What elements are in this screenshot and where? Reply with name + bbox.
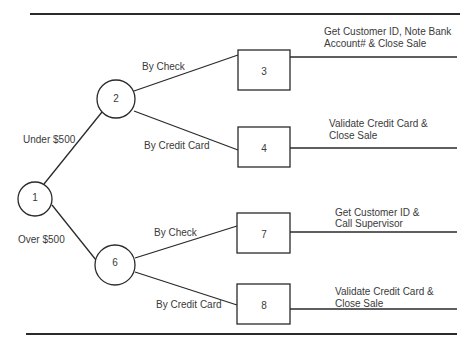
edge-1-to-2 — [44, 112, 102, 184]
outcome-4-line2: Close Sale — [329, 130, 378, 141]
node-7: 7 — [237, 213, 290, 253]
node-7-label: 7 — [261, 229, 267, 240]
node-2-label: 2 — [113, 93, 119, 104]
node-8-label: 8 — [261, 300, 267, 311]
outcome-3-line1: Get Customer ID, Note Bank — [324, 26, 452, 37]
node-2: 2 — [97, 80, 135, 118]
edge-label-over-500: Over $500 — [18, 234, 65, 245]
edge-label-6-by-check: By Check — [154, 227, 198, 238]
outcome-7-line1: Get Customer ID & — [335, 207, 420, 218]
node-3-label: 3 — [261, 66, 267, 77]
outcome-8-line2: Close Sale — [335, 298, 384, 309]
node-1-label: 1 — [32, 192, 38, 203]
edge-label-6-by-credit-card: By Credit Card — [156, 299, 222, 310]
node-3: 3 — [238, 50, 290, 90]
node-4: 4 — [238, 127, 290, 167]
outcome-8-line1: Validate Credit Card & — [335, 286, 434, 297]
edge-label-2-by-credit-card: By Credit Card — [144, 140, 210, 151]
edge-label-2-by-check: By Check — [142, 61, 186, 72]
outcome-7-line2: Call Supervisor — [335, 218, 403, 229]
edge-label-under-500: Under $500 — [23, 134, 76, 145]
node-1: 1 — [18, 182, 52, 216]
node-8: 8 — [237, 284, 290, 324]
node-6: 6 — [95, 245, 135, 285]
node-4-label: 4 — [261, 143, 267, 154]
decision-tree-diagram: 1 2 6 3 4 7 8 Under $500 Over $500 By Ch… — [0, 0, 475, 348]
edge-1-to-6 — [52, 205, 96, 260]
outcome-4-line1: Validate Credit Card & — [329, 118, 428, 129]
outcome-3-line2: Account# & Close Sale — [324, 38, 427, 49]
node-6-label: 6 — [112, 257, 118, 268]
